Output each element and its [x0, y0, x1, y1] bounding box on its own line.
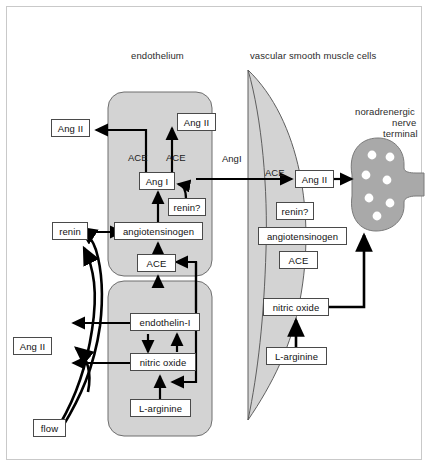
node-ace-endothelium: ACE [137, 254, 176, 272]
region-label-nerve-terminal-line1: noradrenergic [355, 106, 415, 117]
label-ace-right: ACE [166, 152, 186, 163]
flow-streamline-curves [60, 228, 102, 426]
node-endothelin-i: endothelin-I [130, 313, 200, 331]
node-nitric-oxide-endothelium: nitric oxide [130, 353, 196, 371]
region-label-smooth-muscle: vascular smooth muscle cells [250, 50, 376, 61]
smooth-muscle-cell-shape [248, 70, 306, 420]
node-smc-angiotensinogen: angiotensinogen [258, 227, 347, 245]
label-ace-gap: ACE [265, 167, 285, 178]
node-flow: flow [33, 419, 66, 437]
region-label-nerve-terminal-line3: terminal [383, 128, 418, 139]
node-endothelial-angii: Ang II [177, 113, 216, 131]
region-label-endothelium: endothelium [131, 50, 184, 61]
region-label-nerve-terminal-line2: nerve [392, 117, 416, 128]
node-lumen-angii-top: Ang II [51, 119, 90, 137]
node-lumen-angii-bottom: Ang II [13, 337, 52, 355]
node-smc-ace: ACE [279, 251, 318, 269]
noradrenergic-nerve-terminal-shape [351, 138, 424, 231]
node-renin-question-endothelium: renin? [168, 198, 206, 216]
label-angi-gap: AngI [222, 153, 242, 164]
node-l-arginine-endothelium: L-arginine [130, 399, 191, 417]
node-angiotensinogen-endothelium: angiotensinogen [114, 222, 203, 240]
node-smc-nitric-oxide: nitric oxide [263, 298, 329, 316]
node-smc-angii: Ang II [295, 170, 334, 188]
node-lumen-renin: renin [52, 222, 88, 240]
label-ace-left: ACE [128, 152, 148, 163]
node-smc-l-arginine: L-arginine [266, 347, 327, 365]
node-angi: Ang I [139, 172, 175, 190]
arrow-smc-nitricoxide-to-nerve [328, 235, 364, 307]
figure-canvas: endothelium vascular smooth muscle cells… [0, 0, 430, 468]
node-smc-renin-question: renin? [276, 202, 314, 220]
